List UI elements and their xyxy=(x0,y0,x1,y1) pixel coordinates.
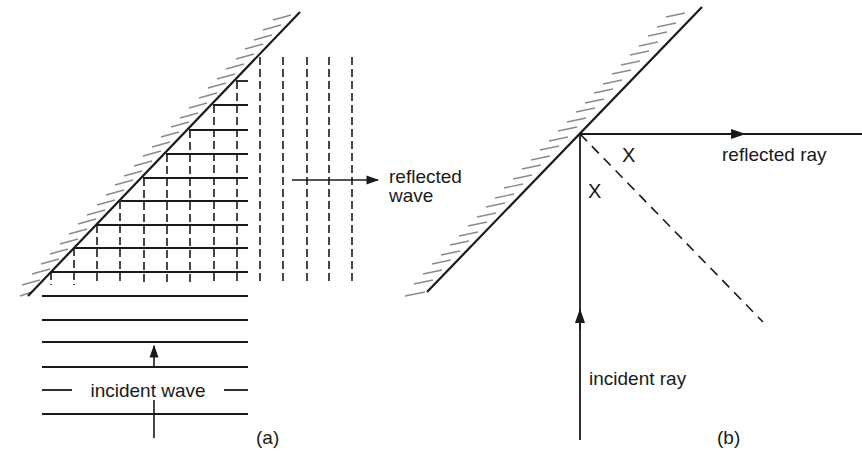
panel-b-label: (b) xyxy=(717,427,740,448)
angle-label-reflected: X xyxy=(622,144,635,166)
reflected-wavefronts xyxy=(51,57,352,285)
reflection-diagram: incident wave reflected wave (a) xyxy=(0,0,862,456)
incident-wavefronts-overlap xyxy=(51,81,248,272)
incident-ray-label: incident ray xyxy=(589,368,687,389)
panel-b: X X reflected ray incident ray (b) xyxy=(405,7,862,448)
mirror-b xyxy=(427,7,702,292)
incident-wave-label: incident wave xyxy=(90,380,205,401)
reflected-ray-label: reflected ray xyxy=(722,144,827,165)
panel-a: incident wave reflected wave (a) xyxy=(20,12,462,448)
reflected-wave-label-line1: reflected xyxy=(389,166,462,187)
mirror-hatching-a xyxy=(20,15,291,296)
mirror-hatching-b xyxy=(405,13,685,296)
angle-label-incident: X xyxy=(588,180,601,202)
panel-a-label: (a) xyxy=(256,427,279,448)
reflected-wave-label-line2: wave xyxy=(388,185,433,206)
